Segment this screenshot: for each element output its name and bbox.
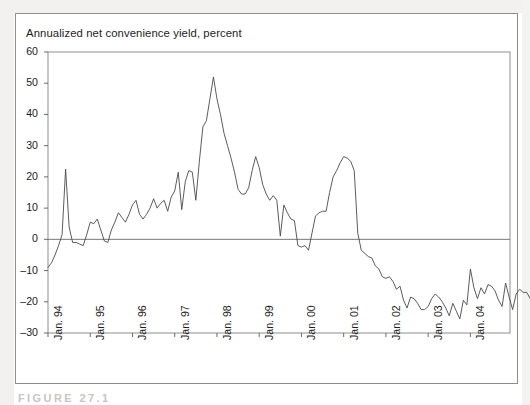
y-tick-label: –20 (12, 295, 38, 307)
y-tick-label: 30 (12, 139, 38, 151)
x-tick-label: Jan. 94 (52, 305, 64, 340)
x-tick-label: Jan. 98 (221, 305, 233, 340)
x-tick-label: Jan. 03 (432, 305, 444, 340)
figure-page: Annualized net convenience yield, percen… (0, 0, 530, 405)
x-tick-label: Jan. 96 (136, 305, 148, 340)
x-tick-label: Jan. 04 (474, 305, 486, 340)
x-tick-label: Jan. 99 (263, 305, 275, 340)
figure-caption: FIGURE 27.1 (18, 392, 110, 405)
x-tick-label: Jan. 97 (179, 305, 191, 340)
y-tick-label: –30 (12, 326, 38, 338)
y-tick-label: 0 (12, 232, 38, 244)
y-tick-label: 10 (12, 201, 38, 213)
y-tick-label: 60 (12, 45, 38, 57)
chart-plot-area (0, 0, 530, 405)
x-tick-label: Jan. 00 (305, 305, 317, 340)
y-tick-label: –10 (12, 264, 38, 276)
x-tick-label: Jan. 02 (390, 305, 402, 340)
y-tick-label: 20 (12, 170, 38, 182)
y-tick-label: 40 (12, 107, 38, 119)
y-tick-label: 50 (12, 76, 38, 88)
x-tick-label: Jan. 95 (94, 305, 106, 340)
x-tick-label: Jan. 01 (348, 305, 360, 340)
